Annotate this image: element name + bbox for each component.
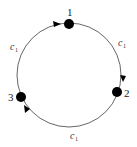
node-2: 2 — [112, 87, 130, 99]
edge-label-1-2: c 1 — [118, 37, 126, 49]
svg-text:1: 1 — [15, 47, 18, 53]
node-1: 1 — [64, 6, 74, 29]
node-1-label: 1 — [67, 6, 73, 18]
cycle-ring — [17, 23, 121, 127]
svg-text:1: 1 — [75, 136, 78, 142]
arrow-3-to-1-icon — [53, 21, 61, 27]
node-3-label: 3 — [8, 91, 14, 103]
edge-label-3-1: c 1 — [10, 41, 18, 53]
cycle-diagram: 1 2 3 c 1 c 1 c 1 — [0, 0, 137, 147]
node-3: 3 — [8, 91, 26, 103]
svg-text:1: 1 — [123, 43, 126, 49]
edge-label-2-3: c 1 — [70, 130, 78, 142]
node-2-label: 2 — [124, 87, 130, 99]
